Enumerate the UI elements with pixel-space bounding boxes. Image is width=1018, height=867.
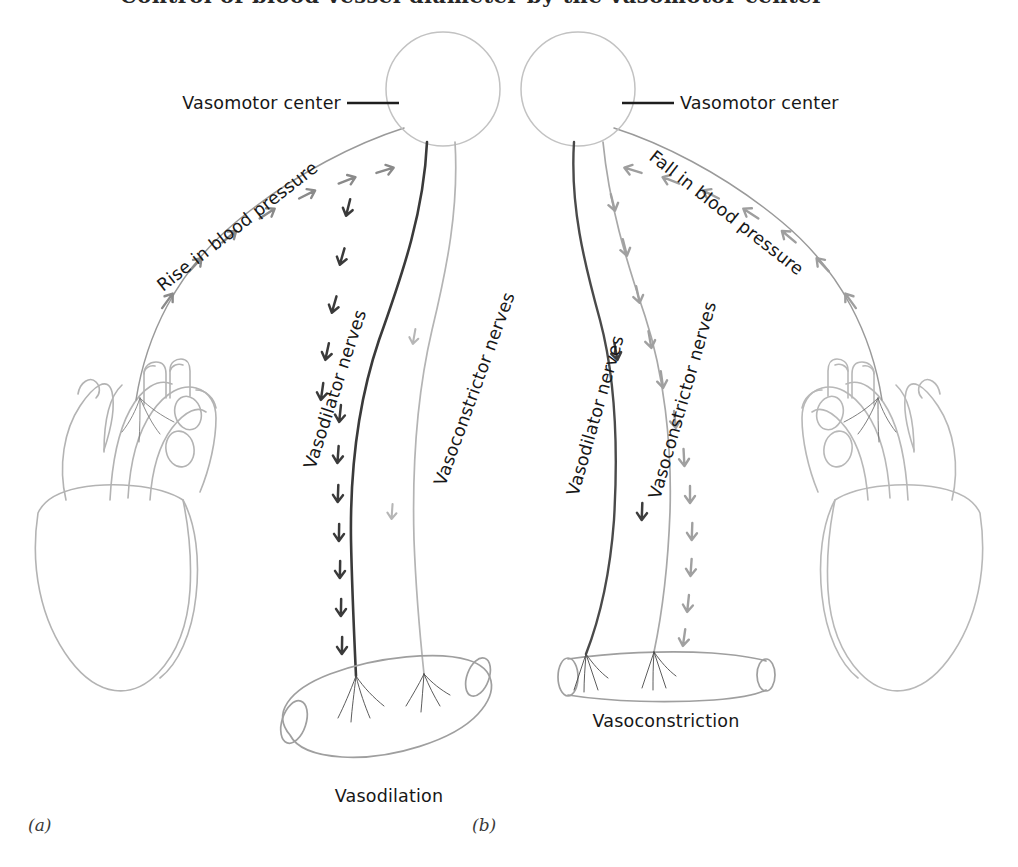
vasoconstrictor-arrows-a xyxy=(387,328,420,519)
vasomotor-center-circle-a xyxy=(386,32,500,146)
afferent-label-a: Rise in blood pressure xyxy=(153,157,321,295)
vasomotor-center-label-b: Vasomotor center xyxy=(680,93,839,113)
effector-label-a: Vasodilation xyxy=(335,786,444,806)
panel-b: Fall in blood pressure Vasomotor center xyxy=(472,32,983,835)
vasoconstrictor-label-b: Vasoconstrictor nerves xyxy=(645,299,721,501)
vasomotor-center-circle-b xyxy=(521,32,635,146)
nerve-terminals-constricted-b xyxy=(574,652,676,692)
heart-illustration-b xyxy=(802,359,983,691)
vasodilator-label-b: Vasodilator nerves xyxy=(563,333,628,498)
vasoconstrictor-label-a: Vasoconstrictor nerves xyxy=(430,290,519,489)
panel-id-a: (a) xyxy=(28,815,51,835)
afferent-label-b: Fall in blood pressure xyxy=(646,146,808,279)
heart-illustration-a xyxy=(35,359,216,691)
vasodilator-label-a: Vasodilator nerves xyxy=(300,307,370,471)
vasoconstrictor-nerve-a xyxy=(414,142,456,674)
nerve-terminals-dilated-a xyxy=(338,674,450,722)
dilated-vessel-a xyxy=(276,654,495,757)
vasodilator-nerve-a xyxy=(351,142,427,676)
constricted-vessel-b xyxy=(558,652,775,702)
effector-label-b: Vasoconstriction xyxy=(593,711,740,731)
panel-a: Rise in blood pressure Vasomotor center xyxy=(28,32,519,835)
panel-id-b: (b) xyxy=(472,815,496,835)
vasomotor-control-diagram: Rise in blood pressure Vasomotor center xyxy=(0,0,1018,867)
vasomotor-center-label-a: Vasomotor center xyxy=(182,93,341,113)
